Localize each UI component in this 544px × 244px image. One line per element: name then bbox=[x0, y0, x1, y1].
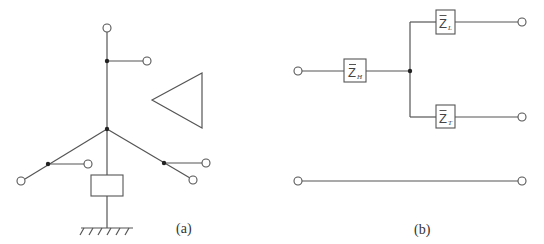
svg-text:H: H bbox=[356, 73, 363, 81]
terminal-circle bbox=[518, 113, 526, 121]
panel-a: (a) bbox=[17, 24, 210, 237]
triangle-icon bbox=[152, 73, 202, 128]
svg-text:Z: Z bbox=[439, 111, 447, 126]
terminal-circle bbox=[202, 159, 210, 167]
panel-b-label: (b) bbox=[414, 222, 431, 238]
svg-text:Z: Z bbox=[439, 16, 447, 31]
terminal-circle bbox=[17, 177, 25, 185]
svg-text:L: L bbox=[447, 24, 452, 32]
terminal-circle bbox=[294, 177, 302, 185]
junction-dot bbox=[105, 127, 109, 131]
impedance-z-l: Z L bbox=[436, 10, 455, 34]
terminal-circle bbox=[518, 18, 526, 26]
junction-dot bbox=[408, 69, 412, 73]
terminal-circle bbox=[103, 24, 111, 32]
panel-a-label: (a) bbox=[176, 221, 192, 237]
terminal-circle bbox=[143, 57, 151, 65]
terminal-circle bbox=[84, 160, 92, 168]
junction-dot bbox=[105, 59, 109, 63]
junction-dot bbox=[46, 162, 50, 166]
panel-b: Z H Z L Z T (b) bbox=[294, 10, 526, 238]
svg-text:Z: Z bbox=[348, 65, 356, 80]
terminal-circle bbox=[294, 67, 302, 75]
right-diagonal-line bbox=[107, 129, 190, 178]
element-box bbox=[91, 175, 123, 196]
impedance-z-h: Z H bbox=[344, 59, 366, 82]
terminal-circle bbox=[189, 176, 197, 184]
ground-icon bbox=[80, 228, 133, 235]
left-diagonal-line bbox=[25, 129, 107, 179]
impedance-z-t: Z T bbox=[436, 105, 455, 128]
junction-dot bbox=[162, 161, 166, 165]
terminal-circle bbox=[518, 177, 526, 185]
